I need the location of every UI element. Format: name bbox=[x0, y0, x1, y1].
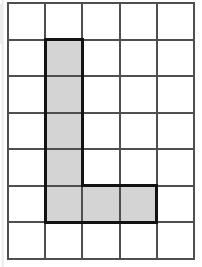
grid-cell-empty bbox=[120, 113, 157, 150]
scan-artifact-secondary bbox=[0, 4, 2, 44]
grid-cell-empty bbox=[82, 149, 119, 186]
gridline-horizontal bbox=[7, 39, 195, 41]
grid-cell-shaded bbox=[45, 149, 82, 186]
polyomino-edge-top bbox=[44, 38, 84, 41]
gridline-horizontal bbox=[7, 258, 195, 260]
grid-cell-empty bbox=[157, 76, 194, 113]
grid-cell-empty bbox=[82, 40, 119, 77]
polyomino-edge-left bbox=[44, 111, 47, 151]
grid-cell-empty bbox=[82, 222, 119, 259]
grid-cell-empty bbox=[45, 3, 82, 40]
grid-cell-empty bbox=[82, 76, 119, 113]
polyomino-edge-left bbox=[44, 38, 47, 78]
polyomino-edge-left bbox=[44, 148, 47, 188]
grid-cell-empty bbox=[8, 186, 45, 223]
grid-cell-shaded bbox=[45, 113, 82, 150]
grid-cell-empty bbox=[120, 76, 157, 113]
polyomino-edge-left bbox=[44, 75, 47, 115]
polyomino-edge-bottom bbox=[81, 221, 121, 224]
grid-cell-empty bbox=[157, 3, 194, 40]
grid-board bbox=[8, 3, 194, 259]
grid-cell-shaded bbox=[45, 76, 82, 113]
grid-cell-empty bbox=[157, 149, 194, 186]
grid-cell-shaded bbox=[120, 186, 157, 223]
gridline-horizontal bbox=[7, 112, 195, 114]
grid-cell-empty bbox=[8, 3, 45, 40]
polyomino-edge-right bbox=[155, 184, 158, 224]
grid-cell-empty bbox=[120, 149, 157, 186]
polyomino-edge-top bbox=[81, 184, 121, 187]
grid-cell-empty bbox=[82, 113, 119, 150]
grid-cell-empty bbox=[157, 222, 194, 259]
gridline-horizontal bbox=[7, 75, 195, 77]
grid-cell-empty bbox=[45, 222, 82, 259]
grid-cell-empty bbox=[8, 113, 45, 150]
polyomino-edge-bottom bbox=[118, 221, 158, 224]
grid-cell-empty bbox=[120, 40, 157, 77]
grid-cell-empty bbox=[8, 222, 45, 259]
grid-cell-empty bbox=[157, 113, 194, 150]
grid-cell-empty bbox=[8, 76, 45, 113]
figure-canvas bbox=[0, 0, 202, 267]
gridline-horizontal bbox=[7, 148, 195, 150]
grid-cell-empty bbox=[8, 149, 45, 186]
grid-cell-shaded bbox=[45, 186, 82, 223]
polyomino-edge-right bbox=[81, 111, 84, 151]
polyomino-edge-bottom bbox=[44, 221, 84, 224]
grid-cell-empty bbox=[120, 222, 157, 259]
polyomino-edge-right bbox=[81, 148, 84, 188]
polyomino-edge-top bbox=[118, 184, 158, 187]
grid-cell-empty bbox=[157, 40, 194, 77]
grid-cell-shaded bbox=[45, 40, 82, 77]
polyomino-edge-right bbox=[81, 75, 84, 115]
grid-cell-empty bbox=[157, 186, 194, 223]
grid-cell-shaded bbox=[82, 186, 119, 223]
gridline-horizontal bbox=[7, 2, 195, 4]
polyomino-edge-left bbox=[44, 184, 47, 224]
polyomino-edge-right bbox=[81, 38, 84, 78]
grid-cell-empty bbox=[120, 3, 157, 40]
grid-cell-empty bbox=[82, 3, 119, 40]
grid-cell-empty bbox=[8, 40, 45, 77]
